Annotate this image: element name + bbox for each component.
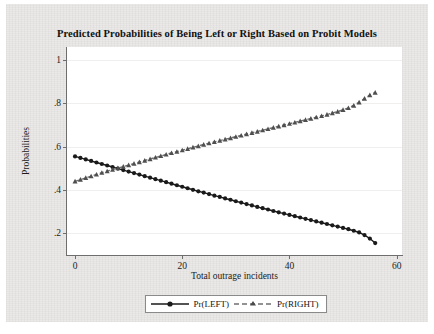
data-point	[314, 219, 318, 223]
data-point	[373, 241, 377, 245]
data-point	[218, 195, 222, 199]
data-point	[325, 222, 329, 226]
data-point	[266, 207, 270, 211]
data-point	[186, 186, 190, 190]
data-point	[207, 192, 211, 196]
data-point	[89, 174, 94, 179]
legend-label-left: Pr(LEFT)	[190, 299, 234, 309]
data-point	[309, 218, 313, 222]
x-tick-label: 60	[392, 261, 402, 271]
data-point	[336, 225, 340, 229]
data-point	[89, 159, 93, 163]
data-point	[137, 173, 141, 177]
x-tick-label: 40	[285, 261, 295, 271]
data-point	[346, 105, 351, 110]
data-point	[143, 174, 147, 178]
legend-item-right[interactable]: Pr(RIGHT)	[233, 299, 323, 309]
data-point	[298, 215, 302, 219]
legend-item-left[interactable]: Pr(LEFT)	[150, 299, 234, 309]
x-axis-spine	[66, 255, 403, 256]
data-point	[373, 90, 378, 95]
data-point	[330, 223, 334, 227]
data-point	[212, 194, 216, 198]
x-tick-mark	[397, 255, 398, 259]
data-point	[127, 169, 131, 173]
data-point	[153, 177, 157, 181]
x-tick-label: 0	[73, 261, 78, 271]
data-point	[180, 185, 184, 189]
data-point	[84, 157, 88, 161]
data-point	[234, 199, 238, 203]
data-point	[202, 191, 206, 195]
x-axis-label: Total outrage incidents	[67, 271, 402, 281]
data-point	[228, 198, 232, 202]
data-point	[362, 233, 366, 237]
data-point	[277, 210, 281, 214]
data-point	[287, 213, 291, 217]
data-point	[271, 209, 275, 213]
y-tick-label: .6	[54, 142, 61, 152]
x-tick-mark	[289, 255, 290, 259]
data-point	[164, 180, 168, 184]
y-tick-label: .4	[54, 185, 61, 195]
data-point	[175, 183, 179, 187]
data-point	[341, 107, 346, 112]
series-prright	[73, 90, 378, 183]
data-point	[196, 189, 200, 193]
data-point	[282, 212, 286, 216]
data-point	[105, 163, 109, 167]
data-point	[132, 171, 136, 175]
data-point	[148, 176, 152, 180]
x-tick-mark	[182, 255, 183, 259]
data-point	[351, 103, 356, 108]
chart-legend: Pr(LEFT) Pr(RIGHT)	[145, 295, 327, 313]
data-point	[255, 205, 259, 209]
y-tick-label: .2	[54, 228, 61, 238]
data-point	[191, 188, 195, 192]
data-point	[261, 206, 265, 210]
legend-key-left	[150, 299, 190, 309]
x-tick-label: 20	[177, 261, 187, 271]
data-point	[94, 160, 98, 164]
data-point	[352, 229, 356, 233]
x-tick-mark	[75, 255, 76, 259]
data-point	[100, 162, 104, 166]
data-point	[341, 226, 345, 230]
y-tick-label: 1	[56, 55, 61, 65]
legend-key-right	[233, 299, 273, 309]
data-point	[357, 230, 361, 234]
data-point	[362, 96, 367, 101]
data-point	[78, 156, 82, 160]
data-point	[94, 172, 99, 177]
data-point	[293, 214, 297, 218]
series-canvas	[67, 47, 402, 255]
data-point	[223, 196, 227, 200]
y-axis-label: Probabilities	[21, 127, 31, 175]
data-point	[159, 179, 163, 183]
data-point	[357, 100, 362, 105]
data-point	[346, 227, 350, 231]
data-point	[303, 217, 307, 221]
data-point	[250, 203, 254, 207]
chart-title: Predicted Probabilities of Being Left or…	[6, 28, 428, 39]
data-point	[239, 200, 243, 204]
y-tick-label: .8	[54, 98, 61, 108]
data-point	[169, 182, 173, 186]
data-point	[73, 154, 77, 158]
data-point	[320, 221, 324, 225]
data-point	[83, 175, 88, 180]
chart-figure: Predicted Probabilities of Being Left or…	[0, 0, 434, 334]
data-point	[244, 202, 248, 206]
data-point	[368, 236, 372, 240]
legend-label-right: Pr(RIGHT)	[273, 299, 323, 309]
plot-area: .2.4.6.81 0204060	[67, 47, 402, 255]
data-point	[367, 93, 372, 98]
